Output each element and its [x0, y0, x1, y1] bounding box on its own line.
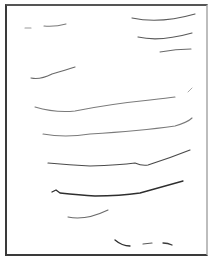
pen-stroke: [160, 49, 191, 52]
pen-stroke: [115, 240, 130, 246]
stroke-layer: [0, 0, 212, 264]
pen-stroke: [31, 67, 75, 79]
pen-stroke: [52, 181, 183, 196]
pen-stroke: [44, 24, 66, 26]
pen-stroke: [143, 243, 152, 244]
pen-stroke: [163, 243, 172, 245]
pen-stroke: [68, 210, 108, 218]
pen-stroke: [132, 14, 195, 20]
pen-stroke: [43, 118, 192, 136]
pen-stroke: [48, 150, 190, 166]
pen-stroke: [35, 97, 175, 112]
pen-stroke: [138, 33, 192, 39]
pen-stroke: [188, 88, 192, 92]
